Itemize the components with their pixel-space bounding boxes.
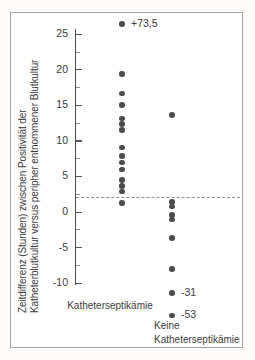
y-axis-tick-label: 20 (38, 63, 68, 76)
x-category-label-katheterseptikaemie: Katheterseptikämie (67, 300, 153, 311)
y-axis-tick-label: 5 (38, 169, 68, 182)
x-category-label-keine-line2: Katheterseptikämie (154, 333, 240, 347)
data-point (119, 91, 125, 97)
data-point (119, 127, 125, 133)
data-point (169, 204, 175, 210)
y-axis-minor-tick (76, 123, 80, 124)
data-point (119, 160, 125, 166)
y-axis-minor-tick (76, 265, 80, 266)
y-axis-minor-tick (76, 52, 80, 53)
point-annotation: +73,5 (131, 17, 158, 30)
y-axis-tick (76, 176, 82, 177)
data-point (119, 153, 125, 159)
figure: Zeitdifferenz (Stunden) zwischen Positiv… (0, 0, 255, 360)
data-point (169, 112, 175, 118)
y-axis-tick (76, 140, 82, 141)
data-point (119, 200, 125, 206)
data-point (169, 235, 175, 241)
y-axis-tick-label: 0 (38, 205, 68, 218)
data-point (119, 189, 125, 195)
y-axis-tick (76, 69, 82, 70)
y-axis-tick-label: 15 (38, 98, 68, 111)
data-point (119, 167, 125, 173)
cutoff-reference-line (76, 197, 240, 198)
data-point (169, 290, 175, 296)
y-axis-tick (76, 105, 82, 106)
data-point (119, 183, 125, 189)
y-axis-tick (76, 247, 82, 248)
y-axis-tick (76, 34, 82, 35)
data-point (119, 145, 125, 151)
y-axis-minor-tick (76, 194, 80, 195)
y-axis-tick-label: -5 (38, 241, 68, 254)
y-axis-minor-tick (76, 158, 80, 159)
point-annotation: -31 (181, 286, 196, 299)
y-axis-tick (76, 212, 82, 213)
y-axis-minor-tick (76, 229, 80, 230)
data-point (119, 71, 125, 77)
data-point (119, 102, 125, 108)
x-category-label-keine-line1: Keine (154, 319, 240, 333)
y-axis-tick-label: 10 (38, 134, 68, 147)
y-axis-minor-tick (76, 87, 80, 88)
data-point (119, 21, 125, 27)
y-axis-tick (76, 283, 82, 284)
data-point (119, 121, 125, 127)
data-point (169, 217, 175, 223)
data-point (169, 313, 175, 319)
y-axis-tick-label: 25 (38, 27, 68, 40)
y-axis-tick-label: -10 (38, 276, 68, 289)
data-point (169, 266, 175, 272)
x-category-label-keine-katheterseptikaemie: Keine Katheterseptikämie (154, 319, 240, 346)
